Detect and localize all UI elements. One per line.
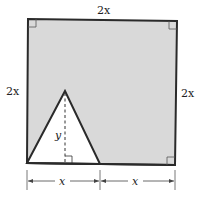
- label-top-side: 2x: [97, 4, 111, 17]
- label-base-right: x: [132, 175, 139, 188]
- label-base-left: x: [59, 175, 66, 188]
- geometry-diagram: 2x 2x 2x y x x: [0, 0, 203, 199]
- label-left-side: 2x: [6, 85, 20, 98]
- arrowhead-icon: [169, 179, 174, 183]
- label-right-side: 2x: [181, 87, 195, 100]
- arrowhead-icon: [101, 179, 106, 183]
- arrowhead-icon: [28, 179, 33, 183]
- label-height: y: [54, 129, 62, 142]
- arrowhead-icon: [94, 179, 99, 183]
